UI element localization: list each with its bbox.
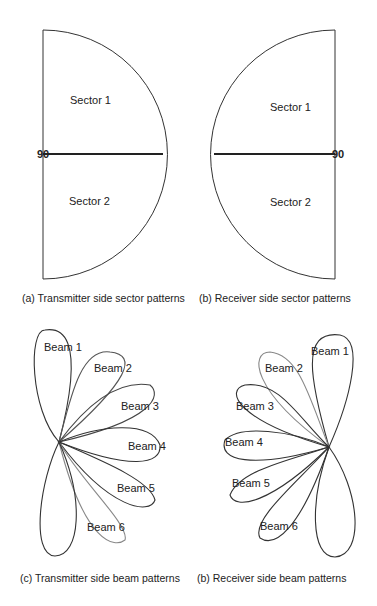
tx-beam-pattern: Beam 1 Beam 2 Beam 3 Beam 4 Beam 5 Beam …	[20, 330, 180, 584]
svg-text:Beam 2: Beam 2	[265, 362, 303, 374]
sector-2-label: Sector 2	[69, 195, 110, 207]
svg-text:Beam 6: Beam 6	[87, 521, 125, 533]
tx-sector-pattern: Sector 1 Sector 2 90 (a) Transmitter sid…	[22, 30, 185, 304]
caption-c: (c) Transmitter side beam patterns	[20, 572, 180, 584]
svg-text:Beam 1: Beam 1	[311, 345, 349, 357]
svg-text:Beam 6: Beam 6	[260, 520, 298, 532]
caption-b: (b) Receiver side sector patterns	[199, 292, 351, 304]
figure-canvas: Sector 1 Sector 2 90 (a) Transmitter sid…	[0, 0, 377, 606]
svg-text:Beam 5: Beam 5	[117, 482, 155, 494]
angle-marker: 90	[37, 148, 49, 160]
caption-d: (b) Receiver side beam patterns	[197, 572, 346, 584]
angle-marker: 90	[332, 148, 344, 160]
svg-text:Beam 1: Beam 1	[44, 341, 82, 353]
beam-6-back-lobe	[315, 447, 355, 557]
beam-3-lobe	[59, 384, 154, 442]
svg-text:Beam 3: Beam 3	[236, 400, 274, 412]
beam-5-lobe	[230, 447, 329, 502]
svg-text:Beam 2: Beam 2	[94, 362, 132, 374]
sector-2-label: Sector 2	[270, 196, 311, 208]
sector-1-label: Sector 1	[270, 101, 311, 113]
svg-text:Beam 5: Beam 5	[232, 477, 270, 489]
svg-text:Beam 4: Beam 4	[225, 436, 263, 448]
sector-1-label: Sector 1	[70, 94, 111, 106]
rx-beam-pattern: Beam 1 Beam 2 Beam 3 Beam 4 Beam 5 Beam …	[197, 335, 355, 584]
beam-6-back-lobe	[40, 442, 76, 556]
rx-sector-pattern: Sector 1 Sector 2 90 (b) Receiver side s…	[199, 30, 351, 304]
caption-a: (a) Transmitter side sector patterns	[22, 292, 185, 304]
svg-text:Beam 3: Beam 3	[121, 400, 159, 412]
svg-text:Beam 4: Beam 4	[128, 440, 166, 452]
